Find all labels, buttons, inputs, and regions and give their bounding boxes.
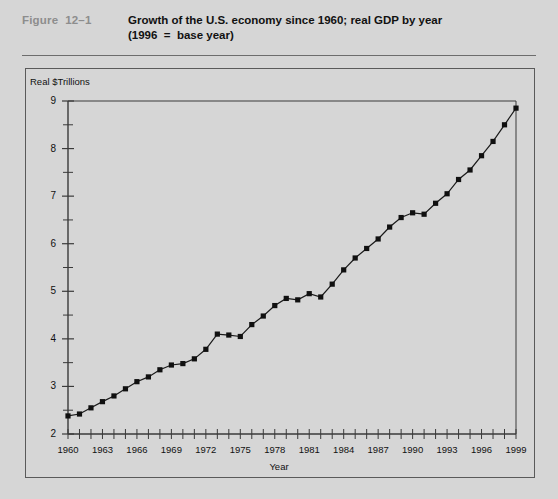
y-axis-tick-label: 4	[36, 333, 56, 344]
figure-header: Figure 12–1 Growth of the U.S. economy s…	[0, 0, 558, 58]
chart-frame	[25, 68, 535, 478]
y-axis-tick-label: 5	[36, 285, 56, 296]
y-axis-tick-label: 3	[36, 380, 56, 391]
figure-number-label: Figure 12–1	[22, 14, 92, 26]
figure-container: Figure 12–1 Growth of the U.S. economy s…	[0, 0, 558, 499]
y-axis-tick-label: 8	[36, 143, 56, 154]
figure-title-line-2: (1996 = base year)	[128, 28, 528, 43]
y-axis-tick-label: 2	[36, 428, 56, 439]
x-axis-tick-label: 1999	[496, 444, 536, 455]
y-axis-tick-label: 6	[36, 238, 56, 249]
y-axis-tick-label: 9	[36, 95, 56, 106]
y-axis-tick-label: 7	[36, 190, 56, 201]
header-divider	[22, 55, 536, 56]
figure-title: Growth of the U.S. economy since 1960; r…	[128, 13, 528, 43]
y-axis-title: Real $Trillions	[30, 76, 90, 87]
figure-title-line-1: Growth of the U.S. economy since 1960; r…	[128, 13, 528, 28]
x-axis-title: Year	[0, 461, 558, 472]
